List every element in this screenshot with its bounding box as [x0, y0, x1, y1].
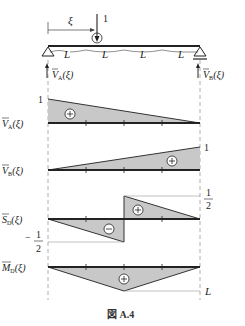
- reaction-a-label: VA(ξ): [52, 69, 74, 81]
- span-label-2: L: [101, 48, 108, 60]
- influence-line-diagram: ξ 1 L L L L VA(ξ) VB(ξ): [0, 0, 245, 326]
- beam-schematic: ξ 1 L L L L VA(ξ) VB(ξ): [42, 13, 225, 81]
- md-label: MD(ξ): [1, 262, 26, 274]
- roller-support-icon: [194, 47, 206, 56]
- sd-neg-half-denominator: 2: [36, 243, 41, 254]
- arrow-up-icon: [45, 63, 49, 68]
- vb-label: VB(ξ): [2, 165, 24, 177]
- vb-value-label: 1: [204, 142, 209, 153]
- sd-minus-sign: −: [25, 232, 31, 243]
- sd-half-numerator: 1: [206, 187, 211, 198]
- span-label-1: L: [63, 48, 70, 60]
- span-label-3: L: [139, 48, 146, 60]
- va-label: VA(ξ): [2, 118, 24, 130]
- arrow-down-icon: [95, 36, 100, 42]
- sd-half-denominator: 2: [206, 200, 211, 211]
- md-value-label: L: [204, 285, 211, 297]
- sd-label: SD(ξ): [2, 214, 23, 226]
- va-influence-line: 1 VA(ξ): [2, 94, 200, 130]
- arrow-right-icon: [90, 28, 95, 32]
- reaction-b-label: VB(ξ): [203, 69, 225, 81]
- span-label-4: L: [177, 48, 184, 60]
- load-label: 1: [103, 13, 108, 24]
- xi-label: ξ: [68, 14, 73, 27]
- sd-neg-half-numerator: 1: [36, 229, 41, 240]
- figure-caption: 図 A.4: [107, 309, 134, 320]
- vb-influence-line: 1 VB(ξ): [2, 142, 209, 177]
- sd-influence-line: 1 2 − 1 2 SD(ξ): [2, 187, 213, 254]
- arrow-up-icon: [196, 63, 200, 68]
- md-influence-line: L MD(ξ): [1, 262, 211, 297]
- va-value-label: 1: [38, 94, 43, 105]
